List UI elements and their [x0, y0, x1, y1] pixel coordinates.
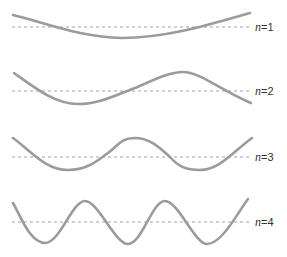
mode-2-value: 2 — [267, 85, 273, 97]
mode-4-label: n=4 — [255, 215, 274, 230]
mode-3 — [12, 138, 252, 170]
mode-2-label: n=2 — [255, 84, 274, 99]
mode-4 — [12, 199, 252, 244]
mode-1 — [12, 13, 252, 38]
mode-2 — [12, 72, 252, 104]
mode-3-value: 3 — [267, 151, 273, 163]
mode-2-wave — [14, 72, 251, 104]
mode-3-wave — [13, 138, 252, 170]
mode-3-label: n=3 — [255, 150, 274, 165]
standing-wave-diagram — [0, 0, 287, 257]
mode-1-value: 1 — [267, 21, 273, 33]
mode-1-label: n=1 — [255, 20, 274, 35]
mode-4-value: 4 — [267, 216, 273, 228]
mode-4-wave — [13, 199, 248, 244]
mode-1-wave — [13, 13, 250, 38]
